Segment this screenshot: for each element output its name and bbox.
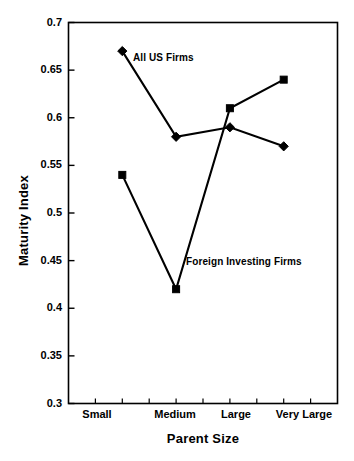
series-layer — [118, 46, 289, 292]
chart-figure: Maturity Index Parent Size 0.7 0.65 0.6 … — [0, 0, 354, 461]
data-point-square-1 — [173, 286, 180, 293]
data-point-square-3 — [280, 76, 287, 83]
series-line — [122, 80, 283, 290]
series-all-us-firms — [118, 46, 289, 150]
data-point-diamond-2 — [225, 123, 234, 132]
series-line — [122, 51, 283, 146]
series-foreign-investing-firms — [119, 76, 287, 293]
plot-area — [0, 0, 354, 461]
data-point-square-0 — [119, 171, 126, 178]
data-point-diamond-3 — [279, 142, 288, 151]
y-tick-marks — [69, 23, 75, 404]
plot-frame — [69, 23, 338, 404]
data-point-square-2 — [226, 105, 233, 112]
